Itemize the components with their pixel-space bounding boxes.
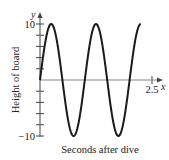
x-ticks: 2.5	[145, 76, 158, 95]
y-axis-label: Height of board	[10, 46, 21, 113]
y-tick-label: −10	[19, 131, 35, 142]
y-axis-letter: y	[30, 9, 36, 20]
x-tick-label: 2.5	[145, 84, 158, 95]
y-axis-arrow-icon	[38, 12, 43, 18]
x-axis-label: Seconds after dive	[61, 144, 139, 155]
y-tick-label: 10	[25, 19, 36, 30]
chart: 10−10 2.5 x y Seconds after dive Height …	[0, 0, 169, 160]
x-axis-letter: x	[160, 81, 166, 92]
